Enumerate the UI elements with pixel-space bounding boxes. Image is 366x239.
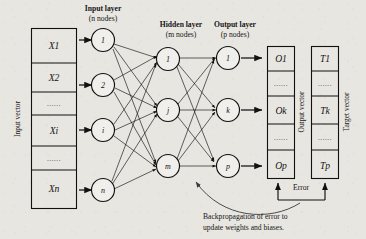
input-cell-xn: Xn <box>48 183 60 194</box>
target-cell-dots-2: ...... <box>318 134 332 142</box>
hidden-node-m: m <box>157 155 180 178</box>
input-node-n: n <box>92 179 115 202</box>
hidden-node-1: 1 <box>157 48 180 71</box>
hidden-node-m-label: m <box>165 162 171 171</box>
edges-input-to-hidden <box>112 44 157 189</box>
hidden-layer-title-line2: (m nodes) <box>166 30 197 39</box>
hidden-layer-title: Hidden layer (m nodes) <box>160 20 203 39</box>
output-node-p-label: p <box>225 162 230 171</box>
output-cell-ok: Ok <box>275 105 287 116</box>
input-node-i-label: i <box>102 126 104 135</box>
output-node-k-label: k <box>226 106 230 115</box>
input-layer-title-line2: (n nodes) <box>89 14 118 23</box>
target-vector-box: T1 ...... Tk ...... Tp <box>312 47 339 179</box>
backprop-caption-line1: Backpropagation of error to <box>203 212 288 221</box>
input-node-2-label: 2 <box>101 81 105 90</box>
hidden-node-j: j <box>157 99 180 122</box>
input-node-1: 1 <box>92 29 115 52</box>
input-node-i: i <box>92 119 115 142</box>
input-node-1-label: 1 <box>101 36 105 45</box>
output-layer-title-line2: (p nodes) <box>221 30 250 39</box>
hidden-node-1-label: 1 <box>166 55 170 64</box>
target-cell-t1: T1 <box>320 53 330 64</box>
hidden-layer-title-line1: Hidden layer <box>160 20 203 29</box>
output-node-1: 1 <box>217 47 240 70</box>
input-layer-title-line1: Input layer <box>85 4 122 13</box>
backprop-caption-line2: update weights and biases. <box>203 223 284 232</box>
input-vector-label: Input vector <box>13 101 22 137</box>
backpropagation-caption: Backpropagation of error to update weigh… <box>203 212 288 232</box>
input-node-n-label: n <box>101 186 105 195</box>
edges-hidden-to-output <box>177 58 216 166</box>
input-feed-arrows <box>79 40 92 190</box>
hidden-layer-nodes: 1 j m <box>157 48 180 178</box>
error-junction: Error <box>278 183 325 200</box>
output-node-p: p <box>217 155 240 178</box>
target-cell-tk: Tk <box>320 105 330 116</box>
input-node-2: 2 <box>92 74 115 97</box>
input-layer-nodes: 1 2 i n <box>92 29 115 202</box>
input-cell-x2: X2 <box>48 72 60 83</box>
output-cell-op: Op <box>275 160 287 171</box>
output-node-k: k <box>217 99 240 122</box>
target-cell-dots-1: ...... <box>318 80 332 88</box>
output-layer-title: Output layer (p nodes) <box>214 20 257 39</box>
target-vector-label: Target vector <box>342 92 351 131</box>
input-cell-dots-2: ...... <box>47 155 61 163</box>
error-label: Error <box>293 183 309 192</box>
output-vector-label: Output vector <box>297 91 306 132</box>
backpropagation-arrow <box>196 182 300 214</box>
input-cell-xi: Xi <box>49 125 59 136</box>
output-node-1-label: 1 <box>226 54 230 63</box>
output-feed-arrows <box>241 58 262 166</box>
input-cell-x1: X1 <box>48 40 60 51</box>
output-cell-dots-1: ...... <box>274 80 288 88</box>
output-cell-dots-2: ...... <box>274 134 288 142</box>
input-cell-dots-1: ...... <box>47 100 61 108</box>
neural-network-diagram: Input layer (n nodes) Hidden layer (m no… <box>0 0 366 239</box>
input-vector-box: X1 X2 ...... Xi ...... Xn <box>32 29 77 209</box>
target-cell-tp: Tp <box>320 160 330 171</box>
output-layer-title-line1: Output layer <box>214 20 257 29</box>
output-vector-box: O1 ...... Ok ...... Op <box>268 47 295 179</box>
output-layer-nodes: 1 k p <box>217 47 240 178</box>
input-layer-title: Input layer (n nodes) <box>85 4 122 23</box>
output-cell-o1: O1 <box>275 53 287 64</box>
